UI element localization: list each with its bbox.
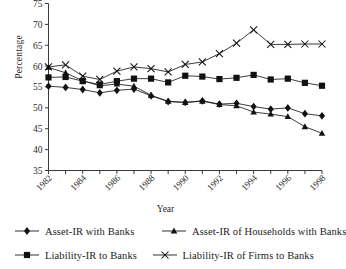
triangle-data-marker [302, 123, 309, 129]
legend-item-asset-ir-with-banks[interactable]: Asset-IR with Banks [14, 224, 161, 238]
data-series-group [45, 26, 326, 136]
legend-label: Liability-IR to Banks [45, 250, 137, 261]
legend-label: Asset-IR with Banks [45, 226, 134, 237]
diamond-marker-icon [14, 224, 40, 238]
square-data-marker [45, 74, 51, 80]
legend-item-liability-ir-to-banks[interactable]: Liability-IR to Banks [14, 248, 152, 262]
diamond-data-marker [319, 112, 325, 120]
y-tick-label: 50 [33, 103, 43, 113]
diamond-data-marker [80, 86, 86, 94]
cross-data-marker [216, 50, 223, 57]
diamond-data-marker [285, 104, 291, 112]
legend-item-liability-ir-of-firms-to-banks[interactable]: Liability-IR of Firms to Banks [152, 248, 331, 262]
cross-data-marker [250, 26, 257, 33]
square-data-marker [199, 73, 205, 79]
square-data-marker [131, 76, 137, 82]
y-tick-label: 55 [33, 82, 43, 92]
square-data-marker [302, 80, 308, 86]
square-data-marker [182, 73, 188, 79]
square-data-marker [233, 75, 239, 81]
square-data-marker [62, 74, 68, 80]
diamond-data-marker [63, 84, 69, 92]
cross-data-marker [165, 68, 172, 75]
legend-label: Asset-IR of Households with Banks [192, 226, 346, 237]
x-tick-label: 1984 [68, 172, 88, 192]
square-data-marker [216, 76, 222, 82]
y-tick-label: 65 [33, 41, 43, 51]
x-axis-ticks: 198219841986198819901992199419961998 [34, 171, 328, 193]
series-square [45, 72, 325, 89]
diamond-data-marker [114, 86, 120, 94]
triangle-data-marker [171, 228, 178, 234]
diamond-data-marker [24, 227, 30, 235]
cross-data-marker [233, 40, 240, 47]
y-tick-label: 40 [33, 145, 43, 155]
legend-row-2: Liability-IR to Banks Liability-IR of Fi… [0, 243, 331, 267]
legend-row-1: Asset-IR with Banks Asset-IR of Househol… [0, 219, 331, 243]
y-tick-label: 45 [33, 124, 43, 134]
triangle-marker-icon [161, 224, 187, 238]
x-tick-label: 1998 [308, 172, 328, 192]
cross-marker-icon [152, 248, 178, 262]
diamond-data-marker [302, 110, 308, 118]
square-data-marker [285, 76, 291, 82]
x-tick-label: 1986 [102, 172, 122, 192]
y-axis-ticks: 354045505560657075 [33, 0, 49, 176]
square-data-marker [114, 78, 120, 84]
legend-item-asset-ir-of-households-with-banks[interactable]: Asset-IR of Households with Banks [161, 224, 331, 238]
cross-data-marker [113, 68, 120, 75]
square-data-marker [165, 79, 171, 85]
x-tick-label: 1990 [171, 172, 191, 192]
square-marker-icon [14, 248, 40, 262]
x-tick-label: 1996 [273, 172, 293, 192]
diamond-data-marker [97, 89, 103, 97]
y-tick-label: 70 [33, 20, 43, 30]
x-tick-label: 1994 [239, 172, 259, 192]
y-tick-label: 75 [33, 0, 43, 9]
axis-lines [49, 4, 323, 171]
chart-legend: Asset-IR with Banks Asset-IR of Househol… [0, 219, 331, 269]
y-tick-label: 60 [33, 62, 43, 72]
x-tick-label: 1992 [205, 173, 225, 193]
square-data-marker [268, 76, 274, 82]
legend-label: Liability-IR of Firms to Banks [183, 250, 314, 261]
y-tick-label: 35 [33, 166, 43, 176]
series-line [49, 30, 323, 80]
square-data-marker [319, 83, 325, 89]
diamond-data-marker [45, 82, 51, 90]
square-data-marker [24, 252, 30, 258]
square-data-marker [148, 76, 154, 82]
square-data-marker [251, 72, 257, 78]
x-tick-label: 1988 [137, 172, 157, 192]
